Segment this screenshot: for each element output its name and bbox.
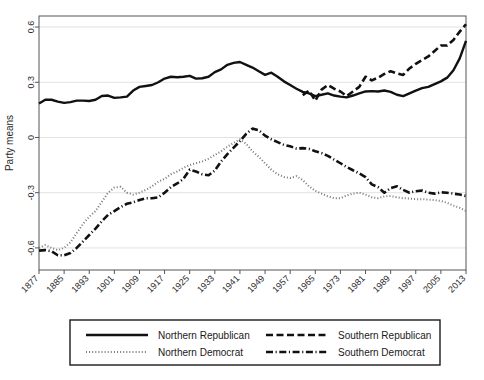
legend-label-northern-republican: Northern Republican: [158, 330, 250, 341]
y-tick-label: -0.3: [26, 185, 36, 201]
legend-label-southern-republican: Southern Republican: [338, 330, 431, 341]
y-tick-label: 0.3: [26, 76, 36, 89]
legend-label-southern-democrat: Southern Democrat: [338, 347, 425, 358]
y-axis-title-text: Party means: [4, 115, 15, 171]
legend-label-northern-democrat: Northern Democrat: [158, 347, 243, 358]
y-axis-title: Party means: [4, 115, 15, 171]
y-tick-label: 0: [26, 135, 36, 140]
chart-legend: Northern RepublicanSouthern RepublicanNo…: [70, 320, 440, 365]
y-tick-label: 0.6: [26, 21, 36, 34]
chart-figure: -0.6-0.300.30.6 187718851893190119091917…: [0, 0, 484, 380]
party-means-line-chart: -0.6-0.300.30.6 187718851893190119091917…: [0, 0, 484, 380]
y-tick-label: -0.6: [26, 240, 36, 256]
legend-box: [70, 320, 440, 365]
